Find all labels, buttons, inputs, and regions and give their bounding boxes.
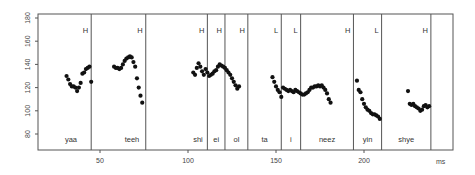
x-tick-label: 150 [270,157,282,164]
y-tick-label: 160 [24,35,31,47]
tone-label: H [422,26,427,35]
tone-label: L [274,26,278,35]
data-point [325,91,329,95]
syllable-label: shye [398,135,414,144]
data-point [279,95,283,99]
data-point [130,55,134,59]
data-point [87,65,91,69]
x-tick-label: 100 [182,157,194,164]
tone-label: H [345,26,350,35]
tone-label: L [293,26,297,35]
syllable-label: ol [233,135,239,144]
syllable-label: neez [319,135,336,144]
tone-label: H [137,26,142,35]
data-point [358,90,362,94]
data-point [79,81,83,85]
syllable-segments: HyaaHteehHshiHeiHolLtaLiHneezLyinHshye [65,14,431,150]
syllable-label: yin [363,135,373,144]
y-tick-label: 120 [24,82,31,94]
data-point [277,90,281,94]
data-point [237,84,241,88]
syllable-label: ei [213,135,219,144]
data-point [198,65,202,69]
data-point [133,65,137,69]
tone-label: H [217,26,222,35]
syllable-label: yaa [65,135,78,144]
data-point [355,79,359,83]
data-point [378,117,382,121]
y-tick-label: 100 [24,105,31,117]
data-point [137,86,141,90]
y-tick-label: 140 [24,58,31,70]
tone-label: H [83,26,88,35]
data-point [270,75,274,79]
y-tick-label: 80 [24,130,31,138]
data-point [406,89,410,93]
data-point [77,86,81,90]
data-point [138,94,142,98]
tone-label: H [199,26,204,35]
data-point [66,77,70,81]
data-point [328,101,332,105]
data-point [360,97,364,101]
tone-label: H [239,26,244,35]
data-point [427,104,431,108]
syllable-label: shi [193,135,203,144]
pitch-contour-chart: 8010012014016018050100150200 HyaaHteehHs… [0,0,475,175]
syllable-label: teeh [125,135,140,144]
data-point [193,73,197,77]
data-point [140,101,144,105]
data-point [202,73,206,77]
data-point [272,80,276,84]
x-tick-label: 50 [96,157,104,164]
x-axis-unit-label: ms [436,158,446,165]
data-point [135,76,139,80]
data-point [89,80,93,84]
syllable-label: i [290,135,292,144]
x-tick-label: 200 [358,157,370,164]
data-point [131,60,135,64]
plot-frame [38,14,453,150]
y-tick-label: 180 [24,12,31,24]
syllable-label: ta [261,135,268,144]
tone-label: L [374,26,378,35]
